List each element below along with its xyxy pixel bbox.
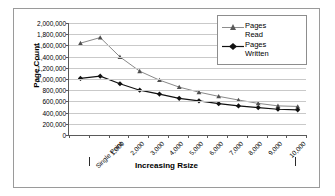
y-tick-label: 200,000 [20,120,66,127]
legend-label-line1: Pages [245,21,266,30]
y-tick-label: 1,800,000 [20,31,66,38]
legend-label-pages-written: Pages Written [245,40,269,58]
legend-item-pages-read: Pages Read [218,20,306,39]
y-tick-mark [66,45,69,46]
x-tick-mark [247,135,248,138]
y-tick-mark [66,90,69,91]
x-tick-mark [128,135,129,138]
legend-label-line2: Written [245,49,269,58]
data-point-marker [177,96,182,101]
data-point-marker [157,92,162,97]
x-tick-mark [168,135,169,138]
gridline [69,101,306,102]
x-tick-label: 4,000 [168,140,184,156]
x-tick-mark [267,135,268,138]
x-tick-label: 6,000 [208,140,224,156]
y-tick-mark [66,101,69,102]
y-tick-mark [66,57,69,58]
y-tick-label: 400,000 [20,109,66,116]
gridline [69,124,306,125]
chart-legend: Pages Read Pages Written [217,15,307,65]
y-tick-label: 600,000 [20,98,66,105]
x-tick-label: 1,000 [109,140,125,156]
data-point-marker [256,105,261,110]
y-tick-mark [66,79,69,80]
y-tick-label: 2,000,000 [20,20,66,27]
x-tick-label: 3,000 [148,140,164,156]
gridline [69,90,306,91]
y-tick-label: 1,000,000 [20,76,66,83]
x-tick-label: 10,000 [288,140,307,159]
x-tick-label: 8,000 [247,140,263,156]
x-axis-range-tick-right [295,157,296,166]
x-tick-mark [89,135,90,138]
data-point-marker [117,81,122,86]
legend-marker-triangle-icon [222,22,244,33]
legend-label-line2: Read [245,30,263,39]
y-tick-mark [66,34,69,35]
x-axis-title: Increasing Rsize [14,161,319,170]
y-tick-mark [66,124,69,125]
x-tick-label: 7,000 [227,140,243,156]
gridline [69,113,306,114]
x-tick-mark [286,135,287,138]
x-tick-mark [207,135,208,138]
x-tick-mark [306,135,307,138]
x-axis-range-tick-left [89,157,90,166]
data-point-marker [236,103,241,108]
chart-frame: Page Count 2,000,0001,800,0001,600,0001,… [13,8,320,188]
x-tick-label: 5,000 [188,140,204,156]
gridline [69,79,306,80]
legend-marker-diamond-icon [222,41,244,52]
legend-label-line1: Pages [245,40,266,49]
y-tick-label: 1,200,000 [20,64,66,71]
legend-item-pages-written: Pages Written [218,39,306,58]
y-tick-label: 1,400,000 [20,53,66,60]
x-tick-mark [109,135,110,138]
y-tick-mark [66,68,69,69]
x-tick-mark [69,135,70,138]
y-tick-label: 800,000 [20,87,66,94]
x-tick-mark [148,135,149,138]
y-tick-label: 1,600,000 [20,42,66,49]
x-tick-mark [188,135,189,138]
data-point-marker [98,35,103,39]
series-line-pages-written [80,76,297,110]
y-tick-mark [66,23,69,24]
x-tick-mark [227,135,228,138]
y-tick-mark [66,113,69,114]
legend-label-pages-read: Pages Read [245,21,266,39]
x-tick-label: 9,000 [267,140,283,156]
gridline [69,68,306,69]
y-tick-label: 0 [20,132,66,139]
x-tick-label: 2,000 [129,140,145,156]
